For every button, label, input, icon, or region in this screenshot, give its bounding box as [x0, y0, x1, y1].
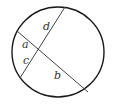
- circle: [12, 7, 104, 97]
- label-b: b: [54, 69, 61, 82]
- label-c: c: [23, 54, 29, 67]
- label-d: d: [43, 20, 50, 33]
- label-a: a: [22, 38, 29, 51]
- intersecting-chords-diagram: d a c b: [0, 0, 115, 107]
